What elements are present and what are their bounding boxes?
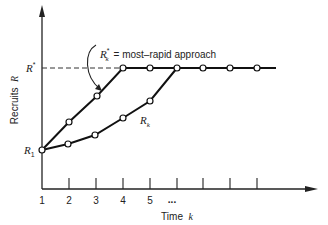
y-axis [39, 5, 45, 189]
rk-curve [42, 68, 177, 150]
x-axis-arrow-icon [305, 186, 318, 192]
data-markers [39, 65, 260, 153]
x-ticks [69, 178, 257, 189]
r-one-label: R1 [23, 144, 35, 158]
y-axis-arrow-icon [39, 5, 45, 17]
annotation-arrow [87, 45, 100, 89]
y-axis-label: Recruits R [9, 76, 20, 124]
most-rapid-annotation: R*k= most–rapid approach [99, 47, 216, 63]
tick-label: 1 [39, 195, 45, 206]
x-tick-labels: 1 2 3 4 5 ... [39, 194, 176, 206]
tick-label: 3 [93, 195, 99, 206]
tick-ellipsis: ... [168, 194, 177, 205]
r-star-label: R* [25, 61, 36, 74]
tick-label: 4 [120, 195, 126, 206]
most-rapid-curve [42, 68, 276, 150]
tick-label: 5 [147, 195, 153, 206]
tick-label: 2 [66, 195, 72, 206]
x-axis [42, 186, 318, 192]
rk-curve-label: Rk [139, 114, 151, 129]
recruitment-diagram: 1 2 3 4 5 ... Time k Recruits R R* R1 [0, 0, 328, 225]
x-axis-label: Time k [161, 211, 193, 222]
